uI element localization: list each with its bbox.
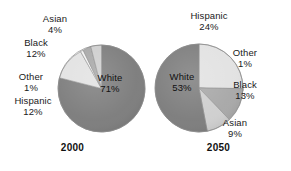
label-hispanic-2050-name: Hispanic (173, 11, 245, 22)
pie-chart-2050: Hispanic 24% Other 1% Black 13% Asian 9%… (146, 0, 291, 171)
label-other-2000-name: Other (0, 72, 62, 83)
label-asian-2000-name: Asian (24, 14, 86, 25)
label-hispanic-2000-pct: 12% (0, 107, 68, 118)
label-asian-2050-name: Asian (204, 118, 266, 129)
label-black-2050-pct: 13% (216, 91, 274, 102)
label-white-2050: White 53% (156, 72, 208, 93)
label-white-2000: White 71% (84, 73, 136, 94)
label-white-2000-pct: 71% (84, 84, 136, 95)
chart-title-2000: 2000 (0, 142, 145, 153)
label-other-2050-pct: 1% (216, 59, 274, 70)
label-black-2000: Black 12% (5, 38, 67, 59)
label-black-2050: Black 13% (216, 80, 274, 101)
label-black-2050-name: Black (216, 80, 274, 91)
label-hispanic-2050: Hispanic 24% (173, 11, 245, 32)
label-hispanic-2050-pct: 24% (173, 22, 245, 33)
pie-chart-2000: Asian 4% Black 12% Other 1% Hispanic 12%… (0, 0, 145, 171)
label-asian-2050: Asian 9% (204, 118, 266, 139)
label-other-2050: Other 1% (216, 48, 274, 69)
label-white-2050-name: White (156, 72, 208, 83)
label-white-2000-name: White (84, 73, 136, 84)
label-black-2000-pct: 12% (5, 49, 67, 60)
label-other-2000-pct: 1% (0, 83, 62, 94)
label-black-2000-name: Black (5, 38, 67, 49)
label-hispanic-2000: Hispanic 12% (0, 96, 68, 117)
population-composition-pie-figure: Asian 4% Black 12% Other 1% Hispanic 12%… (0, 0, 291, 171)
label-hispanic-2000-name: Hispanic (0, 96, 68, 107)
label-other-2050-name: Other (216, 48, 274, 59)
label-asian-2050-pct: 9% (204, 129, 266, 140)
label-asian-2000: Asian 4% (24, 14, 86, 35)
label-other-2000: Other 1% (0, 72, 62, 93)
chart-title-2050: 2050 (146, 142, 291, 153)
label-white-2050-pct: 53% (156, 83, 208, 94)
label-asian-2000-pct: 4% (24, 25, 86, 36)
